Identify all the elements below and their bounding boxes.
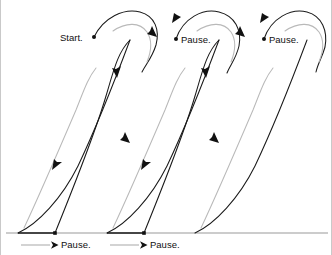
start-dot — [92, 35, 96, 39]
ground-pause-dot-2 — [142, 231, 146, 235]
arrow-descent-slope-2 — [141, 159, 151, 170]
label-pause-bottom-2: Pause. — [150, 239, 180, 250]
ground-pause-dot-1 — [53, 231, 57, 235]
pause-dot-1 — [174, 37, 178, 41]
legend-arrow-2 — [140, 241, 148, 249]
label-pause-top-1: Pause. — [181, 34, 211, 45]
legend-arrow-1 — [51, 241, 59, 249]
arrow-inner-arc-3 — [235, 26, 245, 37]
stride-cycle-2 — [107, 11, 240, 233]
arrow-outer-arc-2 — [172, 13, 181, 23]
ground-pause-legend-1: Pause. — [21, 239, 91, 250]
label-start: Start. — [60, 32, 83, 43]
label-pause-bottom-1: Pause. — [61, 239, 91, 250]
stride-cycle-1 — [18, 11, 157, 233]
ground-pause-legend-2: Pause. — [110, 239, 180, 250]
apex-loop-1 — [94, 11, 157, 72]
ascent-ghost-2 — [113, 68, 185, 228]
arrow-ascent-slope-1 — [120, 132, 130, 143]
label-pause-top-2: Pause. — [269, 34, 299, 45]
diagram-canvas: Start. Pause. Pause. Pause. Pause. — [0, 0, 332, 255]
arrow-descent-slope-1 — [52, 159, 62, 170]
pause-dot-2 — [262, 37, 266, 41]
ascent-ghost-1 — [24, 68, 96, 228]
ascent-ghost-3 — [201, 68, 273, 228]
arrow-outer-arc-3 — [260, 13, 269, 23]
arrow-ascent-slope-2 — [209, 132, 219, 143]
stride-loop-diagram: Start. Pause. Pause. Pause. Pause. — [0, 0, 332, 255]
